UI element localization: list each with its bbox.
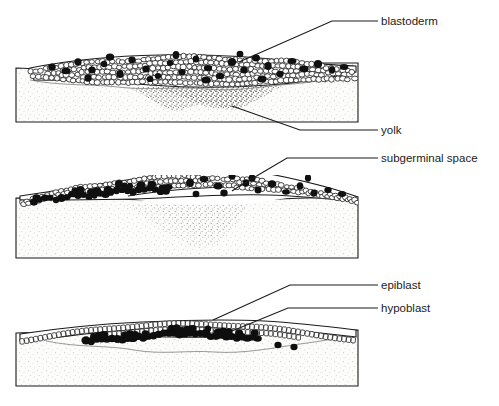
panel-1-blastoderm [28,51,358,87]
label-blastoderm: blastoderm [381,15,438,27]
leader-epiblast [213,285,378,320]
panel-2 [16,169,360,258]
panel-1 [16,51,358,122]
leader-blastoderm [239,21,378,62]
panel-3-yolk-block [16,330,358,386]
figure-root: blastodermyolksubgerminal spaceepiblasth… [0,0,499,406]
label-group: blastodermyolksubgerminal spaceepiblasth… [381,15,478,314]
label-subgerminal-space: subgerminal space [381,152,478,164]
label-epiblast: epiblast [381,279,421,291]
label-hypoblast: hypoblast [381,302,431,314]
label-yolk: yolk [381,124,402,136]
embryo-development-diagram: blastodermyolksubgerminal spaceepiblasth… [0,0,499,406]
panel-3 [16,320,358,386]
